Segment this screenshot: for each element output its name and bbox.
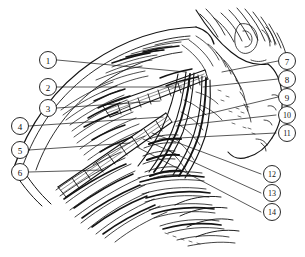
callout-4[interactable]: 4: [12, 118, 29, 135]
callout-1-label: 1: [46, 56, 51, 66]
callout-14-label: 14: [268, 208, 276, 217]
callout-9[interactable]: 9: [279, 89, 296, 106]
callout-13[interactable]: 13: [264, 185, 281, 202]
callout-2-label: 2: [46, 83, 51, 93]
callout-11-label: 11: [283, 129, 291, 138]
callout-6[interactable]: 6: [12, 164, 29, 181]
callout-12-label: 12: [268, 170, 276, 179]
callout-13-label: 13: [268, 189, 276, 198]
callout-3[interactable]: 3: [40, 100, 57, 117]
callout-8-label: 8: [285, 75, 290, 85]
callout-7-label: 7: [285, 57, 290, 67]
callout-12[interactable]: 12: [264, 166, 281, 183]
anatomy-illustration: 1 2 3 4 5 6 7 8: [0, 0, 305, 257]
callout-7[interactable]: 7: [279, 53, 296, 70]
callout-14[interactable]: 14: [264, 204, 281, 221]
callout-8[interactable]: 8: [279, 71, 296, 88]
callout-4-label: 4: [18, 122, 23, 132]
callout-2[interactable]: 2: [40, 79, 57, 96]
callout-9-label: 9: [285, 93, 290, 103]
callout-10-label: 10: [283, 111, 291, 120]
callout-5[interactable]: 5: [12, 142, 29, 159]
callout-10[interactable]: 10: [279, 107, 296, 124]
callout-5-label: 5: [18, 146, 23, 156]
callout-1[interactable]: 1: [40, 52, 57, 69]
callout-3-label: 3: [46, 104, 51, 114]
callout-11[interactable]: 11: [279, 125, 296, 142]
anatomy-figure: 1 2 3 4 5 6 7 8: [0, 0, 305, 257]
callout-6-label: 6: [18, 168, 23, 178]
